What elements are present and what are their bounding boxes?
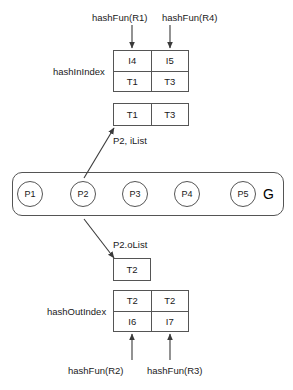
table-row: T2 xyxy=(114,259,150,280)
hash-in-index-cell-0-0: I4 xyxy=(114,51,152,71)
hash-out-index-cell-1-0: I6 xyxy=(114,312,152,332)
table-row: I6 I7 xyxy=(114,312,188,332)
hash-in-index-cell-1-1: T3 xyxy=(152,72,189,92)
hash-in-index-table: I4 I5 T1 T3 xyxy=(113,50,189,92)
graph-node-p5-label: P5 xyxy=(237,189,248,199)
ilist-cell-0: T1 xyxy=(114,104,152,125)
olist-box: T2 xyxy=(113,258,151,281)
hash-out-index-label: hashOutIndex xyxy=(47,307,106,317)
hash-index-diagram: hashFun(R1) hashFun(R4) hashInIndex I4 I… xyxy=(0,0,293,390)
graph-node-p4-label: P4 xyxy=(181,189,192,199)
graph-label: G xyxy=(263,186,274,202)
graph-node-p2: P2 xyxy=(70,181,96,207)
hash-out-index-cell-1-1: I7 xyxy=(152,312,189,332)
graph-node-p1-label: P1 xyxy=(24,189,35,199)
hash-out-index-cell-0-1: T2 xyxy=(152,291,189,311)
table-row: T1 T3 xyxy=(114,104,188,125)
arrow-p2-to-ilist xyxy=(84,128,114,178)
bottom-input-label-r3: hashFun(R3) xyxy=(147,366,202,376)
hash-out-index-cell-0-0: T2 xyxy=(114,291,152,311)
table-row: T2 T2 xyxy=(114,291,188,312)
hash-in-index-label: hashInIndex xyxy=(53,67,105,77)
hash-in-index-cell-0-1: I5 xyxy=(152,51,189,71)
graph-node-p5: P5 xyxy=(230,181,256,207)
graph-node-p1: P1 xyxy=(17,181,43,207)
top-input-label-r4: hashFun(R4) xyxy=(162,13,217,23)
ilist-label: P2, iList xyxy=(113,136,147,146)
ilist-cell-1: T3 xyxy=(152,104,189,125)
table-row: T1 T3 xyxy=(114,72,188,92)
top-input-label-r1: hashFun(R1) xyxy=(92,13,147,23)
hash-out-index-table: T2 T2 I6 I7 xyxy=(113,290,189,332)
graph-node-p3-label: P3 xyxy=(129,189,140,199)
table-row: I4 I5 xyxy=(114,51,188,72)
bottom-input-label-r2: hashFun(R2) xyxy=(68,366,123,376)
olist-cell-0: T2 xyxy=(114,259,150,280)
graph-node-p2-label: P2 xyxy=(77,189,88,199)
graph-node-p3: P3 xyxy=(122,181,148,207)
ilist-box: T1 T3 xyxy=(113,103,189,126)
arrow-p2-to-olist xyxy=(84,219,114,258)
graph-node-p4: P4 xyxy=(174,181,200,207)
hash-in-index-cell-1-0: T1 xyxy=(114,72,152,92)
olist-label: P2.oList xyxy=(113,240,147,250)
